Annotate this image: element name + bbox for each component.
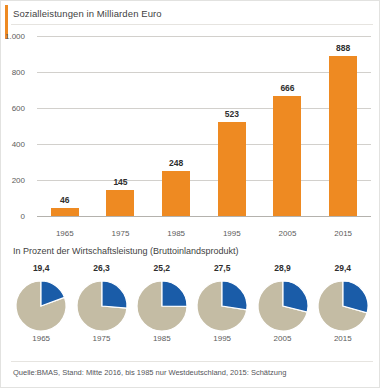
bar[interactable] [106,190,134,216]
pie-cell: 29,42015 [314,263,372,353]
bar-chart: 02004006008001.000 461965145197524819855… [1,28,380,240]
x-axis-tick-label: 1985 [148,229,204,238]
pie-chart[interactable] [13,278,69,334]
bar-value-label: 666 [280,83,294,93]
pie-year-label: 1965 [12,334,70,343]
pie-cell: 27,51995 [193,263,251,353]
bar-value-label: 46 [60,195,69,205]
pie-cell: 25,21985 [133,263,191,353]
pie-chart[interactable] [74,278,130,334]
pie-section-subtitle: In Prozent der Wirtschaftsleistung (Brut… [13,246,239,256]
bar-slot: 523 [204,36,260,216]
bar[interactable] [162,171,190,216]
pie-year-label: 1995 [193,334,251,343]
bar[interactable] [329,56,357,216]
pie-slice-share [102,281,127,308]
pie-chart[interactable] [315,278,371,334]
pie-percentage-label: 19,4 [12,263,70,273]
bar[interactable] [51,208,79,216]
x-axis-tick-label: 2005 [260,229,316,238]
pie-chart[interactable] [134,278,190,334]
pie-year-label: 2015 [314,334,372,343]
x-axis-tick-label: 1965 [37,229,93,238]
infographic-card: Sozialleistungen in Milliarden Euro 0200… [0,0,380,388]
pie-chart[interactable] [194,278,250,334]
bar-value-label: 145 [113,177,127,187]
pie-slice-share [162,281,187,306]
footer-divider [11,361,373,362]
bar[interactable] [218,122,246,216]
bar[interactable] [273,96,301,216]
page-title: Sozialleistungen in Milliarden Euro [13,8,162,19]
x-axis-tick-label: 2015 [315,229,371,238]
y-axis-tick-label: 0 [0,212,25,221]
bar-value-label: 888 [336,43,350,53]
pie-cell: 26,31975 [73,263,131,353]
pie-cell: 19,41965 [12,263,70,353]
bar-slot: 248 [148,36,204,216]
pie-year-label: 1985 [133,334,191,343]
pie-percentage-label: 26,3 [73,263,131,273]
bar-slot: 888 [315,36,371,216]
pie-cell: 28,92005 [254,263,312,353]
pie-slice-share [222,281,247,310]
bars-layer: 4619651451975248198552319956662005888201… [37,36,371,216]
title-divider [11,24,373,25]
y-axis-tick-label: 1.000 [0,32,25,41]
gridline [37,216,371,217]
bar-slot: 46 [37,36,93,216]
pie-percentage-label: 29,4 [314,263,372,273]
pie-percentage-label: 28,9 [254,263,312,273]
bar-value-label: 523 [225,109,239,119]
x-axis-tick-label: 1995 [204,229,260,238]
x-axis-tick-label: 1975 [93,229,149,238]
pie-slice-share [283,281,308,312]
y-axis-tick-label: 200 [0,176,25,185]
bar-slot: 666 [260,36,316,216]
pie-percentage-label: 25,2 [133,263,191,273]
bar-slot: 145 [93,36,149,216]
pie-year-label: 2005 [254,334,312,343]
pie-year-label: 1975 [73,334,131,343]
source-note: Quelle:BMAS, Stand: Mitte 2016, bis 1985… [13,368,286,377]
y-axis-tick-label: 400 [0,140,25,149]
bar-value-label: 248 [169,158,183,168]
y-axis-tick-label: 800 [0,68,25,77]
pie-chart[interactable] [255,278,311,334]
y-axis-tick-label: 600 [0,104,25,113]
pie-chart-row: 19,4196526,3197525,2198527,5199528,92005… [11,263,373,353]
pie-percentage-label: 27,5 [193,263,251,273]
